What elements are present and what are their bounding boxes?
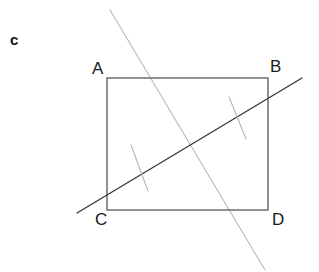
vertex-label-a: A [92, 60, 103, 77]
vertex-label-b: B [270, 58, 281, 75]
figure-canvas [0, 0, 319, 272]
vertex-label-c: C [95, 211, 107, 228]
figure-background [0, 0, 319, 272]
part-label-c: c [10, 32, 18, 47]
vertex-label-d: D [272, 211, 284, 228]
geometry-figure: c A B C D [0, 0, 319, 272]
